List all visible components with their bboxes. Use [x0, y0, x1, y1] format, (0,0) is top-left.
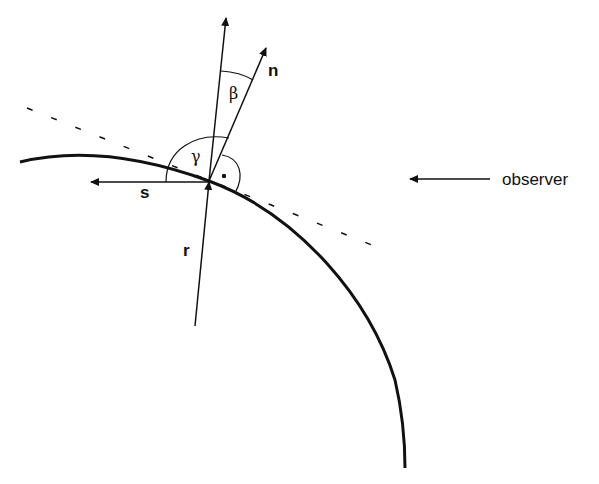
r-extension-arrow [209, 18, 226, 181]
r-label: r [183, 242, 190, 259]
r-vector [195, 182, 209, 326]
observer-label: observer [502, 171, 568, 188]
beta-arc [221, 71, 253, 80]
beta-label: β [229, 86, 238, 102]
gamma-label: γ [191, 149, 201, 165]
surface-curve [20, 155, 405, 468]
diagram-drawing [0, 0, 599, 484]
n-vector [209, 48, 266, 181]
diagram-canvas: n r s β γ observer [0, 0, 599, 484]
n-label: n [268, 62, 278, 79]
s-label: s [140, 184, 149, 201]
right-angle-dot [222, 174, 226, 178]
